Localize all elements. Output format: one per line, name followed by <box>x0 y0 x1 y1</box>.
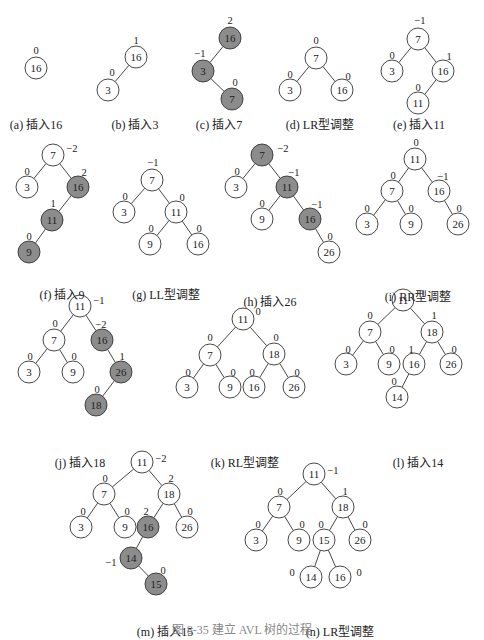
balance-factor: 0 <box>415 82 420 93</box>
tree-edge <box>399 48 411 63</box>
node-key: 3 <box>389 65 395 77</box>
node-key: 3 <box>364 218 370 230</box>
tree-edge <box>280 363 289 377</box>
balance-factor: 0 <box>71 351 76 362</box>
panel-e: 7−130161110 <box>381 15 454 114</box>
tree-node: 70 <box>199 332 221 366</box>
node-key: 7 <box>149 174 155 186</box>
tree-edge <box>87 503 97 518</box>
tree-node: 11−1 <box>276 167 300 198</box>
panel-caption-h: (h) 插入26 <box>244 292 297 310</box>
panel-c: 1623−170 <box>192 15 243 110</box>
tree-edge <box>115 65 129 81</box>
balance-factor: 0 <box>102 473 107 484</box>
node-key: 11 <box>171 206 182 218</box>
tree-node: 90 <box>219 367 241 398</box>
balance-factor: 1 <box>446 51 451 62</box>
tree-edge <box>374 200 386 215</box>
tree-edge <box>323 67 335 82</box>
panel-caption-a: (a) 插入16 <box>10 115 62 133</box>
node-key: 3 <box>343 358 349 370</box>
tree-node: 7−2 <box>42 143 78 166</box>
node-key: 11 <box>413 97 424 109</box>
tree-node: 30 <box>70 506 92 538</box>
panel-caption-f: (f) 插入9 <box>40 285 85 303</box>
tree-edge <box>287 482 306 500</box>
balance-factor: 0 <box>80 506 85 517</box>
tree-edge <box>315 550 321 566</box>
tree-node: 161 <box>403 344 425 375</box>
tree-node: 261 <box>110 351 132 383</box>
tree-edge <box>269 164 280 179</box>
tree-edge <box>36 349 47 364</box>
balance-factor: 0 <box>456 203 461 214</box>
balance-factor: −1 <box>105 557 116 568</box>
node-key: 7 <box>276 501 282 513</box>
panel-caption-b: (b) 插入3 <box>112 115 159 133</box>
balance-factor: 1 <box>342 486 347 497</box>
panel-d: 7030160 <box>279 35 353 101</box>
tree-edge <box>250 327 266 346</box>
tree-edge <box>328 550 335 567</box>
balance-factor: 1 <box>408 344 413 355</box>
node-key: 16 <box>438 65 450 77</box>
node-key: 16 <box>97 334 109 346</box>
balance-factor: 0 <box>196 223 201 234</box>
balance-factor: 0 <box>294 367 299 378</box>
balance-factor: 0 <box>148 223 153 234</box>
node-key: 9 <box>26 246 32 258</box>
panel-caption-i: (i) RR型调整 <box>385 287 451 305</box>
tree-node: 30 <box>97 67 119 101</box>
tree-edge <box>34 164 46 179</box>
node-key: 15 <box>151 578 163 590</box>
node-key: 7 <box>389 185 395 197</box>
node-key: 26 <box>324 246 336 258</box>
tree-node: 90 <box>18 231 40 263</box>
tree-node: 7−2 <box>251 143 289 166</box>
node-key: 7 <box>51 334 57 346</box>
node-key: 3 <box>200 65 206 77</box>
tree-edge <box>444 201 452 215</box>
tree-node: 90 <box>139 223 161 255</box>
node-key: 16 <box>31 62 43 74</box>
tree-edge <box>211 79 224 92</box>
tree-node: 30 <box>356 203 378 235</box>
balance-factor: 0 <box>318 519 323 530</box>
tree-node: 16−1 <box>299 199 323 230</box>
tree-edge <box>438 341 446 354</box>
tree-node: 180 <box>263 332 285 365</box>
node-key: 14 <box>306 571 318 583</box>
tree-edge <box>103 381 115 396</box>
balance-factor: 0 <box>413 137 418 148</box>
tree-node: 30 <box>279 69 301 101</box>
balance-factor: 0 <box>345 71 350 82</box>
balance-factor: 0 <box>273 332 278 343</box>
tree-edge <box>376 341 384 354</box>
balance-factor: 2 <box>143 506 148 517</box>
balance-factor: 0 <box>124 506 129 517</box>
balance-factor: 1 <box>133 35 138 46</box>
tree-edge <box>402 374 409 387</box>
node-key: 16 <box>143 521 155 533</box>
tree-node: 90 <box>378 344 400 375</box>
tree-edge <box>157 221 169 236</box>
tree-node: 140 <box>289 566 322 588</box>
tree-node: 90 <box>288 519 310 551</box>
tree-node: 70 <box>359 310 381 343</box>
balance-factor: 0 <box>391 376 396 387</box>
node-key: 18 <box>269 348 281 360</box>
panel-caption-l: (l) 插入14 <box>393 453 443 471</box>
balance-factor: −1 <box>147 157 158 168</box>
balance-factor: −1 <box>414 15 425 26</box>
balance-factor: 0 <box>390 170 395 181</box>
tree-node: 30 <box>16 166 38 198</box>
tree-node: 70 <box>305 35 327 69</box>
panel-j: 11−17016−23090261180 <box>18 295 132 416</box>
node-key: 9 <box>122 521 128 533</box>
node-key: 7 <box>367 326 373 338</box>
tree-node: 30 <box>113 191 135 223</box>
node-key: 11 <box>309 468 320 480</box>
balance-factor: 0 <box>289 567 294 578</box>
node-key: 11 <box>137 456 148 468</box>
